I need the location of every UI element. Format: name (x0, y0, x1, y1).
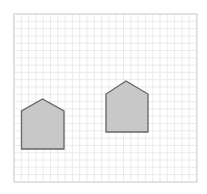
grid-canvas (0, 0, 207, 194)
canvas-background (0, 0, 207, 194)
